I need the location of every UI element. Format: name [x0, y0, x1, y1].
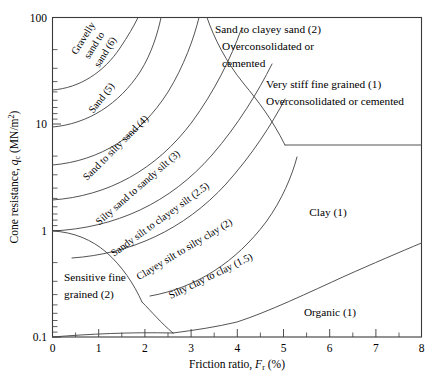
zone-label-clay: Clay (1) — [309, 206, 347, 219]
x-axis-title: Friction ratio, Fr (%) — [189, 358, 285, 372]
x-tick-label-7: 7 — [373, 342, 379, 354]
y-axis-title: Cone resistance, qc (MN/m2) — [7, 110, 22, 243]
chart-canvas: 100 10 1 0.1 0 1 2 3 4 — [0, 0, 444, 374]
x-tick-label-0: 0 — [50, 342, 56, 354]
y-tick-label-100: 100 — [30, 12, 48, 24]
x-tick-label-5: 5 — [281, 342, 287, 354]
zone-label-very-stiff-fine-grained: Very stiff fine grained (1) Overconsolid… — [266, 78, 404, 107]
svg-text:Very stiff fine grained (1): Very stiff fine grained (1) — [266, 78, 381, 91]
svg-text:Sensitive fine: Sensitive fine — [64, 271, 126, 283]
x-axis-ticks — [53, 329, 422, 337]
x-tick-label-4: 4 — [234, 342, 240, 354]
x-tick-label-8: 8 — [419, 342, 425, 354]
y-axis-ticks — [53, 18, 62, 338]
svg-text:Overconsolidated or: Overconsolidated or — [222, 40, 314, 52]
boundary-sensitive-right — [142, 302, 173, 333]
boundary-2-15 — [72, 99, 285, 258]
boundary-clay-organic — [173, 243, 422, 333]
zone-label-organic: Organic (1) — [304, 306, 356, 319]
boundary-bottom-sliver — [53, 333, 174, 337]
zone-label-sensitive-fine-grained: Sensitive fine grained (2) — [64, 271, 126, 301]
svg-text:cemented: cemented — [222, 57, 266, 69]
zone-label-gravelly-sand-to-sand: Gravelly sand to sand (6) — [69, 19, 121, 70]
x-tick-label-6: 6 — [327, 342, 333, 354]
x-tick-label-1: 1 — [96, 342, 102, 354]
x-tick-label-2: 2 — [142, 342, 148, 354]
svg-text:Sand to clayey sand (2): Sand to clayey sand (2) — [215, 23, 321, 36]
svg-text:grained (2): grained (2) — [64, 288, 114, 301]
y-tick-label-10: 10 — [36, 118, 48, 130]
boundary-25-2 — [53, 64, 273, 231]
y-tick-label-0.1: 0.1 — [33, 331, 48, 343]
y-tick-label-1: 1 — [41, 225, 47, 237]
zone-label-sand-to-silty-sand: Sand to silty sand (4) — [81, 113, 151, 183]
svg-text:Overconsolidated or cemented: Overconsolidated or cemented — [266, 95, 404, 107]
cpt-classification-chart: 100 10 1 0.1 0 1 2 3 4 — [0, 0, 444, 374]
boundary-5-4 — [53, 18, 162, 128]
zone-label-sand-to-clayey-sand: Sand to clayey sand (2) Overconsolidated… — [215, 23, 321, 69]
x-tick-label-3: 3 — [188, 342, 194, 354]
zone-label-silty-clay-to-clay: Silty clay to clay (1.5) — [167, 251, 255, 302]
